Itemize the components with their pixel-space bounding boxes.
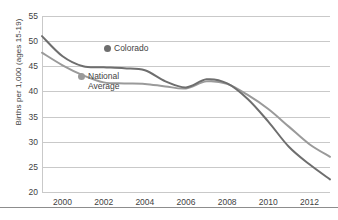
y-tick-55: 55	[29, 12, 38, 21]
legend-label-colorado: Colorado	[114, 43, 149, 53]
y-axis-title: Births per 1,000 (ages 15-19)	[14, 0, 24, 162]
x-tick-2008: 2008	[218, 198, 237, 207]
x-tick-2010: 2010	[259, 198, 278, 207]
y-tick-45: 45	[29, 62, 38, 71]
x-tick-2012: 2012	[300, 198, 319, 207]
series-line-national-average	[42, 53, 330, 157]
bottom-divider	[0, 207, 338, 208]
y-tick-40: 40	[29, 87, 38, 96]
legend-entry-national-average: National Average	[78, 71, 132, 91]
y-tick-25: 25	[29, 163, 38, 172]
gridline-20	[42, 192, 330, 193]
x-tick-2006: 2006	[177, 198, 196, 207]
y-tick-50: 50	[29, 37, 38, 46]
y-tick-35: 35	[29, 112, 38, 121]
y-tick-20: 20	[29, 188, 38, 197]
y-tick-30: 30	[29, 137, 38, 146]
x-tick-2004: 2004	[135, 198, 154, 207]
plot-area: 2025303540455055 20002002200420062008201…	[42, 16, 330, 192]
legend-dot-colorado	[104, 45, 111, 52]
series-line-colorado	[42, 36, 330, 179]
x-tick-2002: 2002	[94, 198, 113, 207]
legend-label-national-average: National Average	[88, 71, 132, 91]
legend-dot-national-average	[78, 73, 85, 80]
series-lines	[42, 16, 330, 192]
legend-entry-colorado: Colorado	[104, 43, 149, 53]
chart-figure: Births per 1,000 (ages 15-19) 2025303540…	[0, 0, 338, 220]
x-tick-2000: 2000	[53, 198, 72, 207]
